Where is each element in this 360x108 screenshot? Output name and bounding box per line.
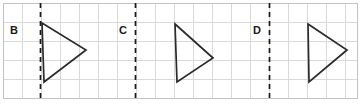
grid-frame [4, 4, 358, 99]
mirror-line-label-c: C [119, 24, 127, 36]
grid-outer-frame [4, 4, 358, 99]
mirror-line-label-d: D [253, 24, 261, 36]
geometry-figure: BCD [0, 0, 360, 108]
figure-canvas: BCD [0, 0, 360, 108]
mirror-line-label-b: B [10, 24, 18, 36]
triangle-d [308, 24, 347, 82]
triangles [42, 23, 347, 82]
grid-horizontal-lines [3, 4, 357, 99]
grid-vertical-lines [4, 3, 358, 98]
